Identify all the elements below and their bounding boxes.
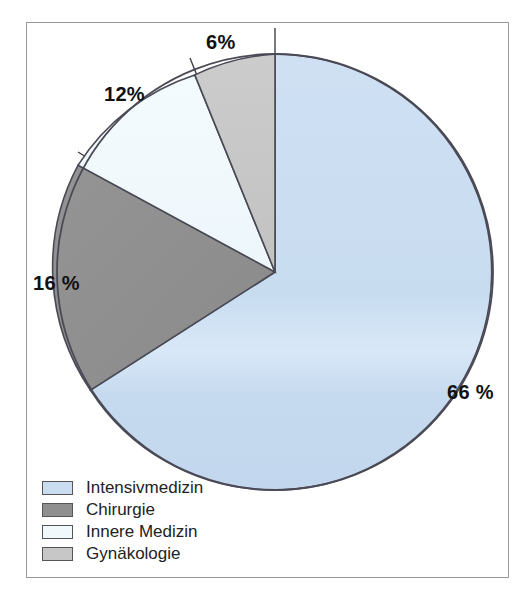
pie-label-intensivmedizin: 66 % (447, 381, 494, 404)
legend-label-gynaekologie: Gynäkologie (86, 544, 181, 563)
legend-item-intensivmedizin: Intensivmedizin (42, 477, 272, 498)
legend-item-gynaekologie: Gynäkologie (42, 543, 272, 564)
figure-root: 66 % 16 % 12% 6% Intensivmedizin Chirurg… (0, 0, 531, 610)
legend-label-chirurgie: Chirurgie (86, 500, 155, 519)
legend-item-innere-medizin: Innere Medizin (42, 521, 272, 542)
pie-label-innere-medizin: 12% (104, 83, 145, 106)
pie-label-chirurgie: 16 % (33, 272, 80, 295)
pie-label-gynaekologie: 6% (206, 31, 236, 54)
legend-swatch-innere-medizin (42, 525, 73, 539)
legend-swatch-chirurgie (42, 503, 73, 517)
legend: Intensivmedizin Chirurgie Innere Medizin… (42, 477, 272, 565)
legend-swatch-gynaekologie (42, 547, 73, 561)
figure-caption (44, 596, 514, 610)
legend-label-innere-medizin: Innere Medizin (86, 522, 198, 541)
legend-swatch-intensivmedizin (42, 481, 73, 495)
legend-label-intensivmedizin: Intensivmedizin (86, 478, 203, 497)
legend-item-chirurgie: Chirurgie (42, 499, 272, 520)
